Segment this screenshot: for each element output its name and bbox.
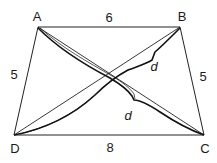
brace-bd-inner: [20, 94, 96, 134]
vertex-label-b: B: [178, 10, 187, 23]
diagonal-label-ac: d: [124, 109, 131, 122]
vertex-label-c: C: [200, 142, 209, 155]
vertex-label-a: A: [33, 10, 42, 23]
brace-ac-inner: [40, 28, 135, 99]
diagonal-label-bd: d: [150, 60, 157, 73]
side-label-ad: 5: [10, 68, 17, 81]
side-ad: [14, 27, 38, 135]
diagonal-bd: [14, 27, 180, 135]
side-label-bc: 5: [199, 70, 206, 83]
vertex-label-d: D: [10, 142, 19, 155]
side-label-ab: 6: [105, 11, 112, 24]
side-label-dc: 8: [106, 141, 113, 154]
